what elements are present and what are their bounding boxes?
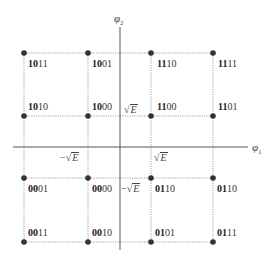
point-label: 1011 (28, 59, 48, 69)
point-label: 0110 (217, 184, 237, 194)
phi1-axis-label: φ1 (252, 142, 262, 156)
phi2-axis-label: φ2 (114, 13, 124, 27)
tick-pos-x: √E (154, 152, 168, 163)
point-label: 0001 (28, 184, 48, 194)
point-label: 0011 (28, 228, 48, 238)
point-label: 0111 (217, 228, 237, 238)
tick-pos-y: √E (124, 104, 138, 115)
point-label: 0101 (155, 228, 175, 238)
tick-neg-x: −√E (60, 152, 79, 163)
point-label: 1111 (218, 59, 237, 69)
tick-neg-y: −√E (121, 183, 140, 194)
point-label: 0000 (92, 184, 112, 194)
point-label: 1110 (157, 59, 176, 69)
constellation-canvas (0, 0, 272, 260)
point-label: 0010 (92, 228, 112, 238)
point-label: 1001 (92, 59, 112, 69)
point-label: 1101 (218, 102, 237, 112)
point-label: 0110 (155, 184, 175, 194)
point-label: 1100 (157, 102, 176, 112)
point-label: 1000 (92, 102, 112, 112)
point-label: 1010 (28, 102, 48, 112)
